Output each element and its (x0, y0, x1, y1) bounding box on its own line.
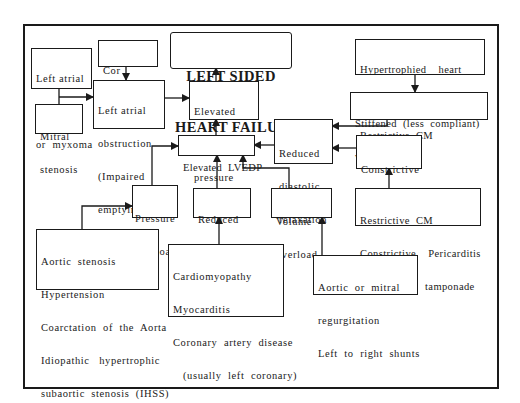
node-la-obstruction: Left atrial obstruction (Impaired emptyi… (93, 80, 165, 129)
node-volume-causes: Aortic or mitral regurgitation Left to r… (313, 255, 418, 295)
node-pressure-causes: Aortic stenosis Hypertension Coarctation… (36, 229, 159, 290)
node-text: Restrictive CM (360, 215, 476, 226)
node-text: Cardiomyopathy (173, 271, 279, 282)
node-text: obstruction (98, 138, 160, 149)
node-elevated-la-pressure: Elevated left atrial pressure (189, 81, 259, 120)
node-text: Mitral (40, 131, 78, 142)
node-text: Myocarditis (173, 304, 279, 315)
node-pressure-overload: Pressure overload (132, 185, 178, 218)
node-text: Idiopathic hypertrophic (41, 355, 154, 366)
node-constrictive-causes: Restrictive CM Constrictive Pericarditis… (355, 188, 481, 226)
node-reduced-inotropy: Reduced Inotropy (193, 188, 251, 218)
node-text: Hypertension (41, 289, 154, 300)
node-stiffened-ventricle: Stiffened (less compliant) ventricle (350, 92, 488, 120)
node-hypertrophied: Hypertrophied heart Ischemic or infarcte… (355, 39, 485, 75)
node-text: Volume (276, 216, 327, 227)
node-text: Stiffened (less compliant) (355, 118, 483, 129)
node-text: Hypertrophied heart (360, 64, 480, 75)
node-text: Cor (103, 65, 153, 76)
node-reduced-diastolic: Reduced diastolic relaxation (274, 119, 333, 164)
node-cor-triatriatum: Cor Triatriatum (98, 40, 158, 67)
node-elevated-lvedp: Elevated LVEDP (178, 135, 255, 156)
node-text: Reduced (198, 214, 246, 225)
node-text: Reduced (279, 148, 328, 159)
node-text: Coarctation of the Aorta (41, 322, 154, 333)
node-text: regurgitation (318, 315, 413, 326)
node-text: Aortic stenosis (41, 256, 154, 267)
node-text: (Impaired (98, 171, 160, 182)
node-text: Left to right shunts (318, 348, 413, 359)
node-text: Elevated (194, 106, 254, 117)
node-text: Constrictive (361, 164, 417, 175)
node-volume-overload: Volume overload (271, 188, 332, 218)
node-text: Pressure (135, 213, 173, 224)
node-mitral-stenosis: Mitral stenosis (35, 104, 83, 134)
title-left-sided-heart-failure: LEFT SIDED HEART FAILURE (170, 32, 292, 69)
node-text: (usually left coronary) (173, 370, 279, 381)
node-text: subaortic stenosis (IHSS) (41, 388, 154, 399)
node-inotropy-causes: Cardiomyopathy Myocarditis Coronary arte… (168, 244, 284, 317)
node-la-thrombus: Left atrial thrombus or myxoma (31, 48, 92, 89)
node-text: Coronary artery disease (173, 337, 279, 348)
node-text: Aortic or mitral (318, 282, 413, 293)
node-text: Left atrial (98, 105, 160, 116)
node-constrictive-abnormality: Constrictive abnormality (356, 135, 422, 169)
node-text: Left atrial (36, 73, 87, 84)
node-text: stenosis (40, 164, 78, 175)
node-text: Elevated LVEDP (183, 162, 250, 173)
